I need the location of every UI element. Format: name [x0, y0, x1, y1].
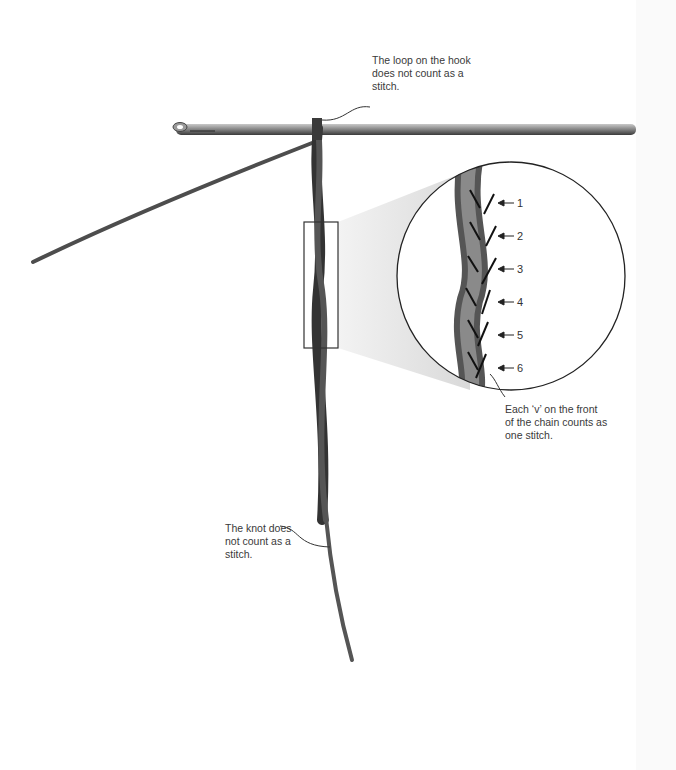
chain [316, 128, 326, 520]
stitch-number-5: 5 [517, 329, 523, 341]
stitch-number-6: 6 [517, 362, 523, 374]
crochet-hook [173, 123, 636, 136]
yarn-tail-left [33, 143, 312, 262]
chain-illustration [0, 0, 676, 770]
stitch-number-1: 1 [517, 197, 523, 209]
stitch-number-2: 2 [517, 230, 523, 242]
annotation-knot: The knot does not count as a stitch. [225, 522, 292, 561]
stitch-number-3: 3 [517, 263, 523, 275]
annotation-each-v: Each ‘v’ on the front of the chain count… [505, 403, 607, 442]
annotation-loop-on-hook: The loop on the hook does not count as a… [372, 54, 471, 93]
leader-loop [322, 107, 370, 120]
yarn-tail-bottom [326, 518, 352, 660]
stitch-number-4: 4 [517, 296, 523, 308]
